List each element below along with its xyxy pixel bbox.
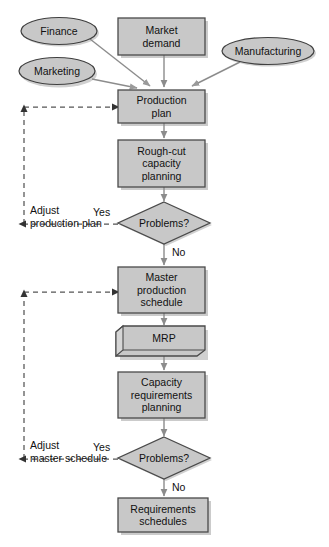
node-marketing <box>19 58 95 85</box>
arrowhead-up-loop-2 <box>21 290 28 298</box>
arrowhead-up-loop-1 <box>21 105 28 113</box>
node-finance <box>21 18 97 45</box>
edge-marketing-to-production-plan <box>92 79 137 88</box>
mrp-flowchart-diagram: Finance Marketing Manufacturing Market d… <box>0 0 329 547</box>
node-master-production-schedule <box>118 267 205 313</box>
diagram-canvas <box>0 0 329 547</box>
arrowhead-left-loop-1 <box>19 221 27 228</box>
node-requirements-schedules <box>118 498 208 532</box>
dashed-loop-arrowheads <box>19 104 120 463</box>
arrowhead-left-loop-2 <box>19 456 27 463</box>
node-manufacturing <box>222 38 314 65</box>
edge-manufacturing-to-production-plan <box>192 62 240 86</box>
node-capacity-requirements-planning <box>118 372 205 418</box>
node-rough-cut-capacity-planning <box>118 140 205 187</box>
node-problems-decision-2 <box>118 437 210 479</box>
dashed-feedback-loops <box>24 107 118 459</box>
node-mrp <box>116 326 205 356</box>
node-problems-decision-1 <box>118 202 210 244</box>
node-production-plan <box>118 90 205 123</box>
node-market-demand <box>118 18 205 55</box>
